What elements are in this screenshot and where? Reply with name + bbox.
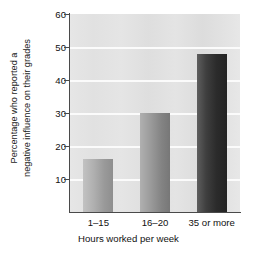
gridline (70, 47, 240, 49)
plot-area (70, 14, 240, 212)
bar (140, 113, 170, 212)
x-axis-tick-label: 16–20 (142, 217, 169, 228)
x-axis-tick-label: 35 or more (188, 217, 234, 228)
x-axis-line (69, 212, 241, 213)
bar (197, 54, 227, 212)
bar-chart-figure: Percentage who reported a negative influ… (0, 0, 257, 253)
x-axis-title: Hours worked per week (0, 233, 257, 244)
x-axis-tick-labels: 1–1516–2035 or more (70, 217, 242, 231)
bar (83, 159, 113, 212)
x-axis-tick-label: 1–15 (88, 217, 109, 228)
